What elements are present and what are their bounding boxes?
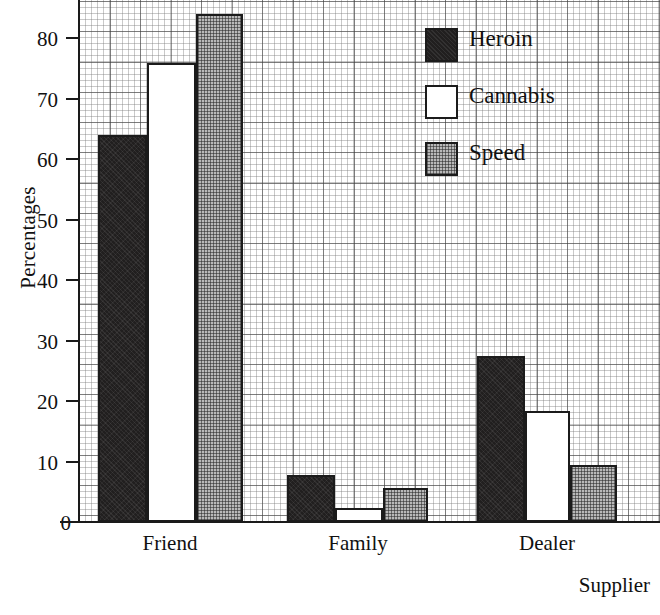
legend-label-cannabis: Cannabis	[469, 83, 555, 109]
x-axis-line	[60, 521, 660, 523]
bar-dealer-speed	[570, 465, 617, 522]
y-tick-80-label: 80	[37, 29, 66, 49]
y-tick-70-label: 70	[37, 90, 66, 110]
y-tick-50-label: 50	[37, 211, 66, 231]
y-tick-80: 80	[37, 27, 79, 47]
plot-area: Heroin Cannabis Speed	[79, 0, 660, 522]
x-tick-dealer: Dealer	[487, 531, 607, 556]
y-tick-0-label: 0	[61, 513, 80, 533]
x-tick-family: Family	[298, 531, 418, 556]
bar-chart-figure: Percentages 80 70 60 50 40 30 20 10 0 He…	[0, 0, 660, 615]
white-square-icon	[425, 85, 458, 119]
y-tick-40: 40	[37, 269, 79, 289]
legend-item-heroin: Heroin	[425, 28, 625, 85]
y-tick-20: 20	[37, 390, 79, 410]
gray-hatched-square-icon	[425, 142, 458, 176]
legend-label-heroin: Heroin	[469, 26, 533, 52]
bar-dealer-cannabis	[525, 411, 570, 522]
bar-dealer-heroin	[477, 356, 525, 522]
x-tick-friend: Friend	[110, 531, 230, 556]
y-tick-10-label: 10	[37, 453, 66, 473]
bar-family-speed	[383, 488, 428, 522]
y-tick-10: 10	[37, 451, 79, 471]
x-axis-label: Supplier	[579, 573, 650, 598]
bar-friend-cannabis	[147, 63, 196, 522]
black-square-icon	[425, 28, 458, 62]
y-tick-40-label: 40	[37, 271, 66, 291]
y-tick-60: 60	[37, 148, 79, 168]
y-tick-20-label: 20	[37, 392, 66, 412]
y-tick-30-label: 30	[37, 332, 66, 352]
y-tick-70: 70	[37, 88, 79, 108]
bar-family-heroin	[287, 475, 335, 522]
bar-friend-heroin	[98, 135, 147, 522]
legend-item-cannabis: Cannabis	[425, 85, 625, 142]
bar-family-cannabis	[335, 508, 383, 522]
chart-legend: Heroin Cannabis Speed	[425, 28, 625, 199]
legend-item-speed: Speed	[425, 142, 625, 199]
bar-friend-speed	[196, 14, 243, 522]
y-tick-50: 50	[37, 209, 79, 229]
y-tick-60-label: 60	[37, 150, 66, 170]
y-axis-line	[78, 0, 80, 522]
y-tick-30: 30	[37, 330, 79, 350]
legend-label-speed: Speed	[469, 140, 525, 166]
